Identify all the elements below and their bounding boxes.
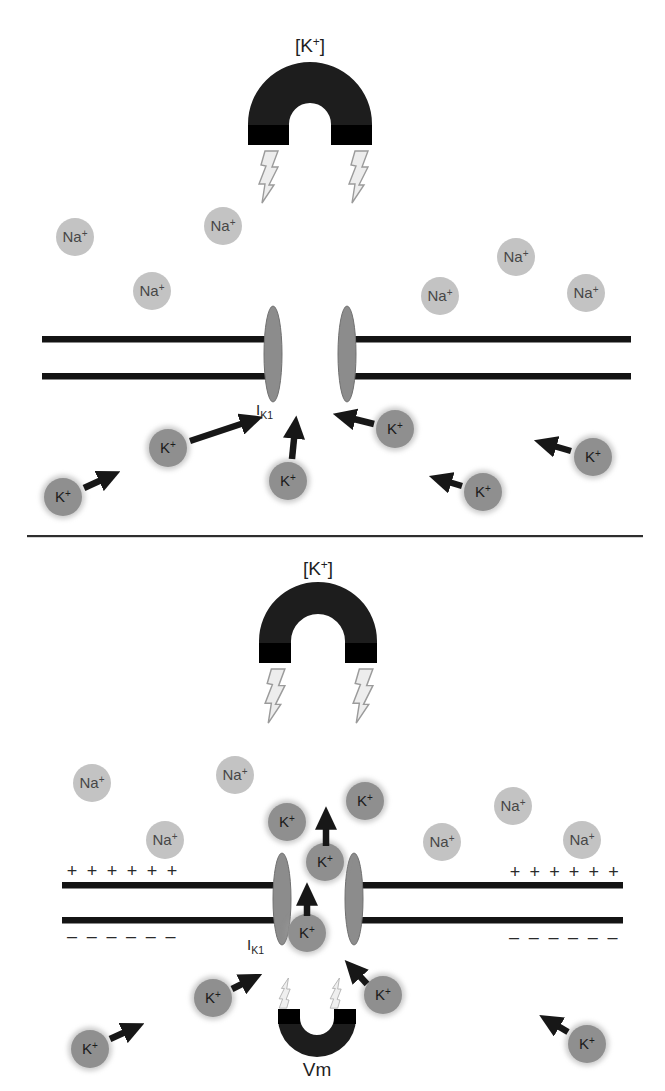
minus-charge: – bbox=[588, 927, 598, 947]
potassium-ion: K+ bbox=[373, 407, 417, 451]
plus-charge: + bbox=[127, 861, 138, 881]
magnet-pole-cap bbox=[248, 125, 289, 145]
plus-charge: + bbox=[107, 861, 118, 881]
minus-charge: – bbox=[87, 926, 97, 946]
sodium-ion: Na+ bbox=[146, 821, 184, 859]
ik1-channel bbox=[345, 853, 363, 945]
ion-channel-diagram: IK1Na+Na+Na+Na+Na+Na+K+K+K+K+K+K+[K+]IK1… bbox=[0, 0, 665, 1091]
vm-magnet bbox=[278, 1009, 356, 1057]
potassium-ion: K+ bbox=[565, 1022, 609, 1066]
flow-arrow bbox=[354, 970, 367, 984]
panel-separator bbox=[27, 535, 643, 537]
cell-membrane-segment bbox=[354, 336, 631, 343]
flow-arrow bbox=[110, 1029, 132, 1039]
flow-arrow bbox=[551, 1022, 568, 1032]
sodium-ion: Na+ bbox=[133, 272, 171, 310]
potassium-ion: K+ bbox=[146, 426, 190, 470]
cell-membrane-segment bbox=[42, 373, 266, 380]
flow-arrow bbox=[190, 421, 250, 441]
panel-depolarized: IK1++++++++++++––––––––––––Na+Na+Na+Na+N… bbox=[62, 558, 623, 1080]
magnet-pole-cap bbox=[331, 125, 372, 145]
flow-arrow bbox=[346, 417, 374, 424]
flow-arrow bbox=[547, 444, 571, 451]
minus-charge: – bbox=[67, 926, 77, 946]
minus-charge: – bbox=[509, 927, 519, 947]
plus-charge: + bbox=[147, 861, 158, 881]
minus-charge: – bbox=[146, 926, 156, 946]
sodium-ion: Na+ bbox=[497, 238, 535, 276]
lightning-bolt-icon bbox=[279, 978, 290, 1008]
potassium-ion: K+ bbox=[343, 779, 387, 823]
ik1-label: IK1 bbox=[256, 401, 273, 421]
k-concentration-label: [K+] bbox=[303, 558, 333, 579]
flow-arrow bbox=[232, 980, 250, 989]
ik1-channel bbox=[338, 306, 356, 402]
sodium-ion: Na+ bbox=[204, 207, 242, 245]
plus-charge: + bbox=[589, 862, 600, 882]
plus-charge: + bbox=[87, 861, 98, 881]
flow-arrow bbox=[84, 477, 108, 488]
cell-membrane-segment bbox=[42, 336, 266, 343]
lightning-bolt-icon bbox=[330, 978, 341, 1008]
figure-canvas: IK1Na+Na+Na+Na+Na+Na+K+K+K+K+K+K+[K+]IK1… bbox=[0, 0, 665, 1091]
potassium-ion: K+ bbox=[191, 976, 235, 1020]
minus-charge: – bbox=[548, 927, 558, 947]
sodium-ion: Na+ bbox=[423, 823, 461, 861]
plus-charge: + bbox=[529, 862, 540, 882]
potassium-ion: K+ bbox=[265, 800, 309, 844]
magnet-pole-cap bbox=[345, 643, 377, 663]
cell-membrane-segment bbox=[62, 882, 274, 889]
plus-charge: + bbox=[608, 862, 619, 882]
flow-arrow bbox=[442, 480, 462, 486]
cell-membrane-segment bbox=[360, 882, 623, 889]
potassium-ion: K+ bbox=[303, 840, 347, 884]
cell-membrane-segment bbox=[354, 373, 631, 380]
sodium-ion: Na+ bbox=[567, 274, 605, 312]
lightning-bolt-icon bbox=[353, 669, 373, 723]
minus-charge: – bbox=[165, 926, 175, 946]
lightning-bolt-icon bbox=[265, 669, 285, 723]
vm-label: Vm bbox=[303, 1059, 332, 1080]
minus-charge: – bbox=[126, 926, 136, 946]
potassium-ion: K+ bbox=[266, 459, 310, 503]
flow-arrow bbox=[292, 429, 295, 459]
potassium-ion: K+ bbox=[361, 973, 405, 1017]
minus-charge: – bbox=[106, 926, 116, 946]
potassium-ion: K+ bbox=[461, 470, 505, 514]
potassium-ion: K+ bbox=[285, 911, 329, 955]
lightning-bolt-icon bbox=[259, 151, 278, 203]
panel-resting: IK1Na+Na+Na+Na+Na+Na+K+K+K+K+K+K+[K+] bbox=[41, 35, 631, 519]
potassium-ion: K+ bbox=[571, 435, 615, 479]
magnet-pole-cap bbox=[259, 643, 291, 663]
sodium-ion: Na+ bbox=[56, 218, 94, 256]
sodium-ion: Na+ bbox=[216, 756, 254, 794]
minus-charge: – bbox=[607, 927, 617, 947]
plus-charge: + bbox=[510, 862, 521, 882]
sodium-ion: Na+ bbox=[494, 787, 532, 825]
sodium-ion: Na+ bbox=[73, 764, 111, 802]
minus-charge: – bbox=[568, 927, 578, 947]
cell-membrane-segment bbox=[360, 917, 623, 924]
minus-charge: – bbox=[529, 927, 539, 947]
magnet-pole-cap bbox=[334, 1009, 356, 1024]
plus-charge: + bbox=[569, 862, 580, 882]
lightning-bolt-icon bbox=[349, 151, 368, 203]
sodium-ion: Na+ bbox=[563, 821, 601, 859]
potassium-ion: K+ bbox=[68, 1027, 112, 1071]
plus-charge: + bbox=[549, 862, 560, 882]
magnet-pole-cap bbox=[278, 1009, 300, 1024]
ik1-channel bbox=[264, 306, 282, 402]
cell-membrane-segment bbox=[62, 917, 274, 924]
k-concentration-magnet bbox=[259, 582, 377, 663]
plus-charge: + bbox=[67, 861, 78, 881]
sodium-ion: Na+ bbox=[421, 277, 459, 315]
plus-charge: + bbox=[167, 861, 178, 881]
k-concentration-magnet bbox=[248, 62, 372, 145]
k-concentration-label: [K+] bbox=[295, 35, 325, 56]
ik1-label: IK1 bbox=[247, 936, 264, 956]
potassium-ion: K+ bbox=[41, 475, 85, 519]
